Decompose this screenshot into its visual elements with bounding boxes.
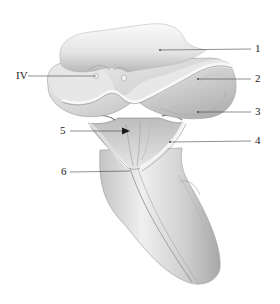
anatomical-figure: 1 IV 2 3 5 4 6 bbox=[0, 0, 280, 304]
label-3: 3 bbox=[255, 106, 261, 117]
label-1: 1 bbox=[255, 43, 261, 54]
brainstem-illustration bbox=[0, 0, 280, 304]
leader-dot-4 bbox=[169, 141, 171, 143]
medulla-shape bbox=[100, 148, 220, 284]
leader-dot-2 bbox=[197, 78, 199, 80]
leader-dot-3 bbox=[197, 111, 199, 113]
leader-dot-1 bbox=[159, 49, 161, 51]
label-5: 5 bbox=[60, 125, 66, 136]
label-2: 2 bbox=[255, 73, 261, 84]
leader-line-4 bbox=[170, 141, 251, 142]
label-IV: IV bbox=[16, 70, 28, 81]
label-6: 6 bbox=[61, 166, 67, 177]
label-4: 4 bbox=[255, 135, 261, 146]
